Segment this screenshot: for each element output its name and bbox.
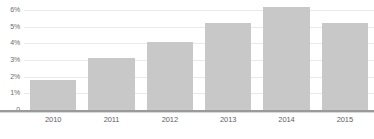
x-axis-labels: 201020112012201320142015: [24, 115, 374, 127]
bar-2014: [263, 7, 310, 110]
y-tick-label-1pct: 1%: [10, 89, 20, 97]
x-tick-label-2010: 2010: [24, 115, 82, 125]
x-tick-label-2012: 2012: [141, 115, 199, 125]
bar-2011: [88, 58, 135, 110]
y-tick-label-6pct: 6%: [10, 6, 20, 14]
x-tick-label-2015: 2015: [316, 115, 374, 125]
bar-2010: [30, 80, 77, 110]
bar-chart: 01%2%3%4%5%6% 201020112012201320142015: [0, 0, 374, 139]
plot-area: [24, 0, 374, 111]
x-tick-label-2014: 2014: [257, 115, 315, 125]
bar-2015: [322, 23, 369, 110]
y-axis-labels: 01%2%3%4%5%6%: [0, 0, 22, 120]
x-tick-label-2013: 2013: [199, 115, 257, 125]
bar-2013: [205, 23, 252, 110]
y-tick-label-2pct: 2%: [10, 73, 20, 81]
x-axis-baseline-shadow: [0, 112, 374, 113]
bar-2012: [147, 42, 194, 110]
bar-series: [24, 0, 374, 111]
x-tick-label-2011: 2011: [82, 115, 140, 125]
y-tick-label-3pct: 3%: [10, 56, 20, 64]
y-tick-label-4pct: 4%: [10, 39, 20, 47]
y-tick-label-5pct: 5%: [10, 23, 20, 31]
